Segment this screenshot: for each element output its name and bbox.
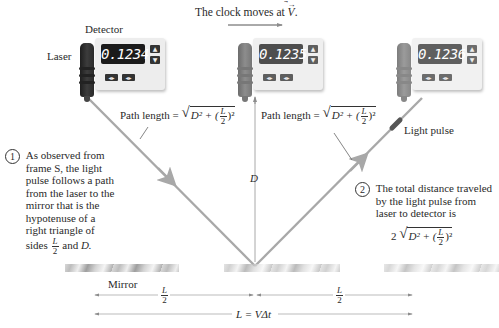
sqrt-icon: √: [182, 104, 190, 120]
right-button[interactable]: ◂▸: [439, 74, 452, 81]
annotation-line: laser to detector is: [376, 207, 492, 220]
clock-display: 0.1234: [101, 44, 145, 64]
dim-label-half-left: L2: [160, 286, 169, 305]
annotation-line: mirror that is the: [26, 199, 115, 212]
up-button[interactable]: ▲: [308, 45, 318, 53]
clock-display: 0.1235: [259, 44, 303, 64]
detector-label: Detector: [85, 23, 123, 36]
laser-icon: [238, 43, 252, 97]
detector-panel: 0.1235 ▲ ▼ ◂▸ ◂▸: [253, 38, 323, 90]
sqrt-body: D² + (L2)²: [331, 106, 376, 126]
total-distance-formula: 2 √D² + (L2)²: [391, 227, 452, 247]
laser-icon: [80, 43, 94, 97]
sqrt-icon: √: [399, 225, 407, 241]
light-path-down-arrow: [158, 168, 170, 180]
annotation-line: pulse follows a path: [26, 174, 115, 187]
annotation-last-line: sides L2 and D.: [26, 237, 115, 256]
sqrt-body: D² + (L2)²: [407, 227, 452, 247]
down-button[interactable]: ▼: [150, 56, 160, 64]
sqrt-body: D² + (L2)²: [190, 106, 235, 126]
right-button[interactable]: ◂▸: [280, 74, 293, 81]
detector-panel: 0.1236 ▲ ▼ ◂▸ ◂▸: [412, 38, 482, 90]
formula-inner: D² + (: [191, 109, 219, 121]
annotation-line: right triangle of: [26, 224, 115, 237]
title: The clock moves at ⃗→V.: [195, 6, 298, 19]
light-pulse-shape: [392, 120, 400, 128]
height-D-label: D: [250, 172, 258, 185]
step-number-1: 1: [5, 149, 20, 164]
annotation-line: The total distance traveled: [376, 182, 492, 195]
annotation-line: by the light pulse from: [376, 195, 492, 208]
leader-line-1: [140, 127, 148, 139]
fraction-L-over-2: L2: [52, 237, 59, 256]
annotation-2: 2 The total distance traveled by the lig…: [355, 182, 492, 220]
fraction-L-over-2: L2: [361, 107, 368, 126]
mirror-left: [65, 264, 179, 272]
clock-display: 0.1236: [418, 44, 462, 64]
annotation-line: As observed from: [26, 149, 115, 162]
annotation-2-body: The total distance traveled by the light…: [376, 182, 492, 220]
right-button[interactable]: ◂▸: [122, 74, 135, 81]
left-button[interactable]: ◂▸: [105, 74, 118, 81]
mirror-middle: [224, 264, 340, 272]
fraction-L-over-2: L2: [220, 107, 227, 126]
path-length-formula-right: Path length = √D² + (L2)²: [261, 106, 376, 126]
title-vector: ⃗→V: [288, 6, 295, 18]
dim-label-full: L = VΔt: [236, 308, 271, 321]
light-path-up-arrow: [350, 159, 362, 171]
mirror-right: [384, 264, 499, 272]
light-pulse-label: Light pulse: [404, 124, 454, 137]
path-length-label: Path length =: [261, 109, 320, 121]
left-button[interactable]: ◂▸: [422, 74, 435, 81]
up-button[interactable]: ▲: [150, 45, 160, 53]
annotation-line: hypotenuse of a: [26, 212, 115, 225]
annotation-1-body: As observed from frame S, the light puls…: [26, 149, 115, 256]
annotation-1: 1 As observed from frame S, the light pu…: [5, 149, 114, 256]
down-button[interactable]: ▼: [308, 56, 318, 64]
up-button[interactable]: ▲: [467, 45, 477, 53]
annotation-line: frame S, the light: [26, 162, 115, 175]
sqrt-icon: √: [323, 104, 331, 120]
laser-label: Laser: [47, 50, 71, 63]
left-button[interactable]: ◂▸: [263, 74, 276, 81]
fraction-L-over-2: L2: [437, 228, 444, 247]
step-number-2: 2: [355, 182, 370, 197]
detector-panel: 0.1234 ▲ ▼ ◂▸ ◂▸: [95, 38, 165, 90]
mirror-label: Mirror: [108, 278, 137, 291]
path-length-label: Path length =: [120, 109, 179, 121]
vector-arrow-icon: ⃗→: [288, 0, 296, 11]
down-button[interactable]: ▼: [467, 56, 477, 64]
title-text: The clock moves at: [195, 6, 285, 18]
annotation-line: from the laser to the: [26, 187, 115, 200]
path-length-formula-left: Path length = √D² + (L2)²: [120, 106, 235, 126]
leader-line-2: [334, 133, 352, 160]
dim-label-half-right: L2: [335, 286, 344, 305]
laser-icon: [397, 43, 411, 97]
